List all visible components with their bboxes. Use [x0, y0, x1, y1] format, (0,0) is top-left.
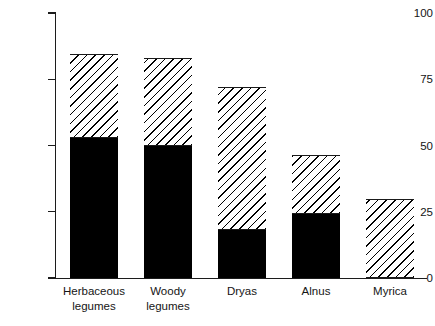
bar-segment-open-white	[218, 13, 266, 87]
bar-dryas	[218, 13, 266, 278]
bar-segment-solid-black	[292, 214, 340, 278]
bar-segment-hatched	[292, 155, 340, 215]
bar-segment-hatched	[366, 199, 414, 279]
bar-segment-hatched	[70, 54, 118, 137]
bar-segment-solid-black	[70, 138, 118, 278]
category-label-line: Myrica	[335, 284, 435, 299]
stacked-bar-chart: Occurrence (%) 0255075100 Herbaceouslegu…	[0, 0, 435, 326]
category-label: Myrica	[335, 284, 435, 299]
bar-segment-solid-black	[144, 146, 192, 279]
bar-segment-solid-black	[218, 230, 266, 278]
category-label-line: legumes	[113, 299, 223, 314]
bar-segment-open-white	[366, 13, 414, 199]
bar-myrica	[366, 13, 414, 278]
bar-alnus	[292, 13, 340, 278]
bar-herbaceous-legumes	[70, 13, 118, 278]
bar-segment-open-white	[144, 13, 192, 58]
plot-area	[57, 13, 427, 278]
bar-woody-legumes	[144, 13, 192, 278]
bar-segment-hatched	[218, 87, 266, 230]
bar-segment-open-white	[70, 13, 118, 54]
x-axis-line	[55, 278, 427, 279]
bar-segment-open-white	[292, 13, 340, 155]
bar-segment-hatched	[144, 58, 192, 145]
